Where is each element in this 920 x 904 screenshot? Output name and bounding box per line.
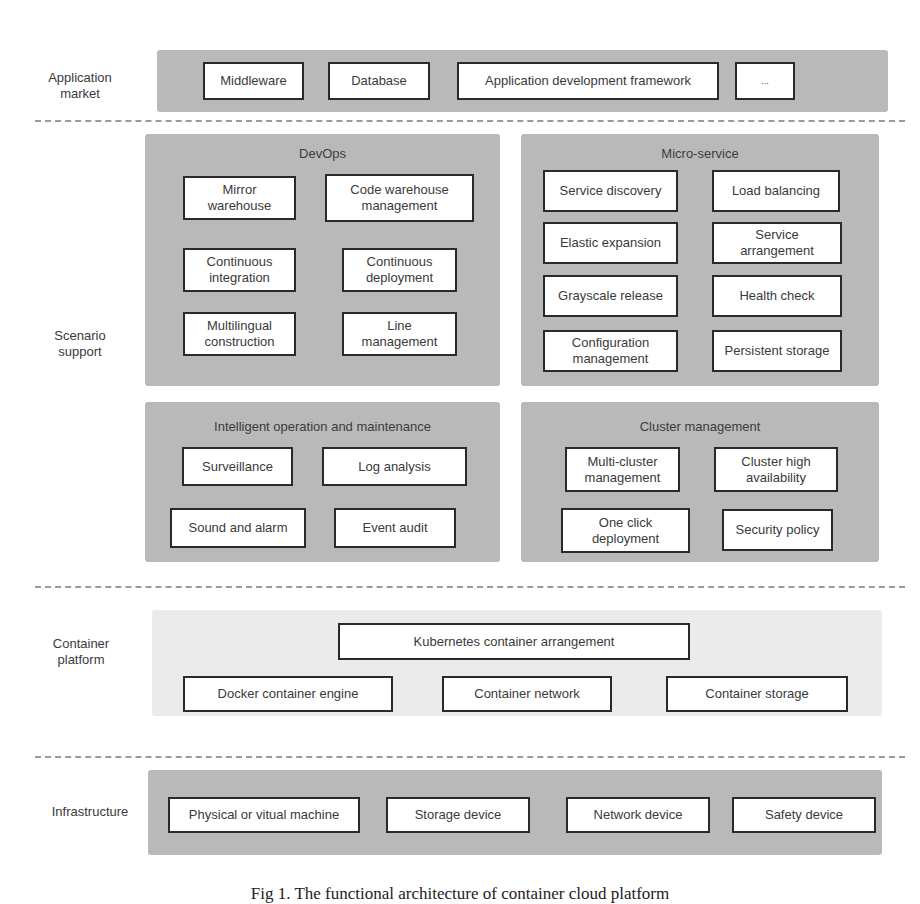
application-market-panel: Middleware Database Application developm…: [157, 50, 888, 112]
figure-caption: Fig 1. The functional architecture of co…: [0, 884, 920, 904]
safety-device-box: Safety device: [732, 797, 876, 833]
devops-item: Multilingual construction: [183, 312, 296, 356]
micro-service-item: Grayscale release: [543, 275, 678, 317]
database-box: Database: [328, 62, 430, 100]
micro-service-item: Load balancing: [712, 170, 840, 212]
devops-panel: DevOps Mirror warehouse Code warehouse m…: [145, 134, 500, 386]
storage-device-box: Storage device: [386, 797, 530, 833]
cluster-item: Multi-cluster management: [565, 447, 680, 492]
layer-divider: [35, 120, 905, 122]
layer-label-application-market: Application market: [38, 70, 122, 102]
micro-service-item: Service arrangement: [712, 222, 842, 264]
cluster-item: Cluster high availability: [714, 447, 838, 492]
middleware-box: Middleware: [203, 62, 304, 100]
micro-service-item: Health check: [712, 275, 842, 317]
layer-label-container-platform: Container platform: [50, 636, 112, 668]
devops-item: Continuous integration: [183, 248, 296, 292]
ops-panel: Intelligent operation and maintenance Su…: [145, 402, 500, 562]
app-dev-framework-box: Application development framework: [457, 62, 719, 100]
layer-label-scenario-support: Scenario support: [50, 328, 110, 360]
micro-service-item: Service discovery: [543, 170, 678, 212]
layer-divider: [35, 756, 905, 758]
micro-service-item: Configuration management: [543, 330, 678, 372]
devops-item: Mirror warehouse: [183, 176, 296, 220]
ops-item: Surveillance: [182, 447, 293, 486]
cluster-item: Security policy: [722, 509, 833, 551]
ops-item: Log analysis: [322, 447, 467, 486]
more-box: ...: [735, 62, 795, 100]
micro-service-item: Persistent storage: [712, 330, 842, 372]
micro-service-panel: Micro-service Service discovery Load bal…: [521, 134, 879, 386]
infrastructure-panel: Physical or vitual machine Storage devic…: [148, 770, 882, 855]
cluster-panel: Cluster management Multi-cluster managem…: [521, 402, 879, 562]
devops-item: Continuous deployment: [342, 248, 457, 292]
ops-item: Sound and alarm: [170, 508, 306, 548]
layer-label-infrastructure: Infrastructure: [40, 804, 140, 820]
devops-item: Code warehouse management: [325, 174, 474, 222]
cluster-item: One click deployment: [561, 508, 690, 553]
ops-title: Intelligent operation and maintenance: [145, 419, 500, 434]
cluster-title: Cluster management: [521, 419, 879, 434]
layer-divider: [35, 586, 905, 588]
container-storage-box: Container storage: [666, 676, 848, 712]
physical-machine-box: Physical or vitual machine: [168, 797, 360, 833]
container-network-box: Container network: [442, 676, 612, 712]
ops-item: Event audit: [334, 508, 456, 548]
kubernetes-box: Kubernetes container arrangement: [338, 623, 690, 660]
network-device-box: Network device: [566, 797, 710, 833]
docker-engine-box: Docker container engine: [183, 676, 393, 712]
devops-item: Line management: [342, 312, 457, 356]
container-platform-panel: Kubernetes container arrangement Docker …: [152, 610, 882, 716]
devops-title: DevOps: [145, 146, 500, 161]
micro-service-item: Elastic expansion: [543, 222, 678, 264]
micro-service-title: Micro-service: [521, 146, 879, 161]
